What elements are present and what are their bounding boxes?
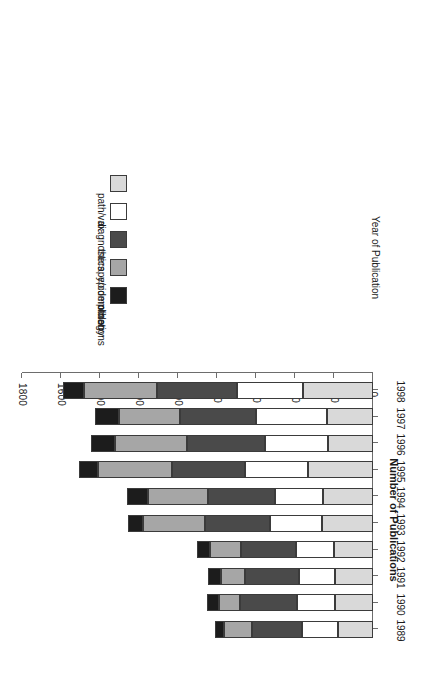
bar-segment [215,621,224,638]
bar-segment [208,488,275,505]
bar-segment [207,594,219,611]
bar-segment [127,488,148,505]
bar-segment [115,435,187,452]
legend-swatch [110,287,127,304]
bar-segment [323,488,373,505]
bar-segment [91,435,115,452]
bar-segment [210,541,241,558]
bar-segment [265,435,328,452]
bar-segment [256,408,327,425]
bar-segment [252,621,302,638]
bar-segment [224,621,252,638]
bar-group [0,621,427,638]
bar-segment [98,461,172,478]
bar-group [0,382,427,399]
bar-segment [338,621,373,638]
bar-segment [197,541,210,558]
bar-group [0,568,427,585]
bar-segment [119,408,180,425]
bar-segment [245,568,299,585]
bar-group [0,541,427,558]
bar-segment [219,594,240,611]
bar-segment [187,435,265,452]
bar-segment [328,435,373,452]
bar-segment [302,621,338,638]
bar-segment [205,515,270,532]
bar-segment [157,382,237,399]
bar-segment [322,515,373,532]
legend-swatch [110,259,127,276]
bar-segment [172,461,245,478]
bar-segment [303,382,373,399]
chart-figure: 020040060080010001200140016001800 198919… [0,0,427,678]
bar-group [0,435,427,452]
bar-group [0,515,427,532]
bar-segment [334,541,373,558]
bar-segment [296,541,334,558]
bar-group [0,461,427,478]
bar-segment [275,488,323,505]
bar-segment [297,594,335,611]
bar-segment [240,594,297,611]
bar-segment [241,541,296,558]
legend-swatch [110,175,127,192]
bar-segment [148,488,208,505]
legend-swatch [110,203,127,220]
bar-segment [128,515,143,532]
bar-segment [299,568,335,585]
bar-segment [327,408,373,425]
bar-segment [143,515,205,532]
bar-segment [270,515,322,532]
bar-segment [335,594,373,611]
bar-group [0,488,427,505]
bar-segment [180,408,256,425]
bar-segment [208,568,221,585]
legend-label: path/vax [96,193,107,313]
bar-segment [79,461,98,478]
bar-segment [221,568,245,585]
bars-layer [0,0,427,678]
bar-group [0,408,427,425]
bar-segment [63,382,84,399]
bar-segment [308,461,373,478]
plot-area: 020040060080010001200140016001800 198919… [0,0,427,678]
bar-segment [335,568,373,585]
legend-swatch [110,231,127,248]
bar-segment [245,461,308,478]
bar-group [0,594,427,611]
bar-segment [237,382,303,399]
